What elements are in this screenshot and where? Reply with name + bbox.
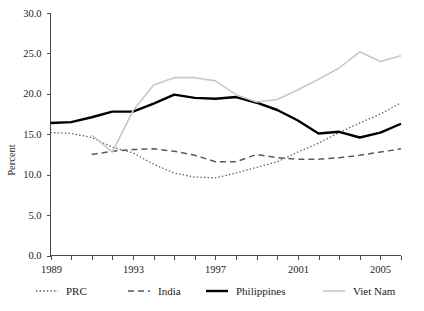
y-tick-label: 5.0 (28, 210, 41, 221)
x-tick-label: 1997 (205, 264, 226, 275)
y-tick-label: 25.0 (23, 48, 41, 59)
x-tick-label: 1989 (41, 264, 62, 275)
y-axis-title: Percent (6, 144, 17, 176)
y-tick-label: 20.0 (23, 88, 41, 99)
y-tick-label: 30.0 (23, 8, 41, 19)
legend-label-viet-nam: Viet Nam (353, 285, 396, 297)
y-tick-label: 15.0 (23, 129, 41, 140)
x-tick-label: 1993 (123, 264, 144, 275)
line-chart: Percent 0.05.010.015.020.025.030.0 19891… (0, 0, 424, 311)
legend-label-india: India (158, 285, 181, 297)
x-tick-label: 2001 (288, 264, 309, 275)
x-axis-tick-marks (52, 256, 402, 260)
y-axis-tick-labels: 0.05.010.015.020.025.030.0 (23, 8, 41, 262)
y-axis-tick-marks (47, 14, 51, 257)
y-tick-label: 10.0 (23, 169, 41, 180)
series-line-philippines (51, 95, 402, 138)
legend-label-prc: PRC (66, 285, 87, 297)
legend-label-philippines: Philippines (236, 285, 286, 297)
series-line-india (92, 149, 401, 162)
x-axis-tick-labels: 19891993199720012005 (41, 264, 391, 275)
x-tick-label: 2005 (370, 264, 391, 275)
series-group (51, 52, 402, 178)
y-tick-label: 0.0 (28, 250, 41, 261)
chart-legend: PRCIndiaPhilippinesViet Nam (36, 285, 396, 297)
chart-svg: Percent 0.05.010.015.020.025.030.0 19891… (0, 0, 424, 311)
